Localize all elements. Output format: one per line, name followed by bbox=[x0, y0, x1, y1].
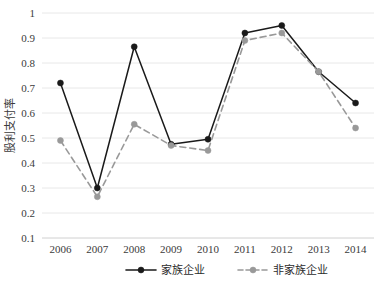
legend-label: 家族企业 bbox=[161, 263, 205, 276]
gridlines bbox=[42, 13, 374, 238]
y-tick-label: 0.8 bbox=[21, 57, 35, 69]
legend-label: 非家族企业 bbox=[273, 263, 328, 276]
data-point-marker bbox=[94, 194, 100, 200]
x-tick-label: 2013 bbox=[308, 243, 331, 255]
chart-canvas: 0.10.20.30.40.50.60.70.80.91 20062007200… bbox=[0, 0, 381, 284]
y-axis-tick-labels: 0.10.20.30.40.50.60.70.80.91 bbox=[21, 7, 35, 244]
data-point-marker bbox=[94, 185, 100, 191]
data-point-marker bbox=[279, 23, 285, 29]
y-tick-label: 0.4 bbox=[21, 157, 35, 169]
y-tick-label: 0.6 bbox=[21, 107, 35, 119]
y-tick-label: 0.5 bbox=[21, 132, 35, 144]
data-point-marker bbox=[353, 100, 359, 106]
chart-legend: 家族企业非家族企业 bbox=[126, 263, 328, 276]
x-tick-label: 2010 bbox=[197, 243, 220, 255]
data-point-marker bbox=[316, 69, 322, 75]
data-point-marker bbox=[242, 30, 248, 36]
x-tick-label: 2014 bbox=[345, 243, 368, 255]
data-point-marker bbox=[353, 125, 359, 131]
y-axis-title-text: 股利支付率 bbox=[3, 98, 16, 153]
data-point-marker bbox=[131, 121, 137, 127]
data-point-marker bbox=[57, 138, 63, 144]
data-point-marker bbox=[168, 143, 174, 149]
y-tick-label: 0.9 bbox=[21, 32, 35, 44]
series-line-1 bbox=[60, 33, 355, 197]
data-point-marker bbox=[131, 44, 137, 50]
data-point-marker bbox=[57, 80, 63, 86]
legend-marker bbox=[250, 267, 256, 273]
data-point-marker bbox=[205, 136, 211, 142]
legend-marker bbox=[138, 267, 144, 273]
dividend-payout-line-chart: 0.10.20.30.40.50.60.70.80.91 20062007200… bbox=[0, 0, 381, 284]
series-line-0 bbox=[60, 26, 355, 189]
x-tick-label: 2006 bbox=[49, 243, 72, 255]
data-point-marker bbox=[205, 148, 211, 154]
y-tick-label: 0.1 bbox=[21, 232, 35, 244]
data-series-group bbox=[57, 23, 358, 200]
x-axis-tick-labels: 200620072008200920102011201220132014 bbox=[49, 243, 367, 255]
x-tick-label: 2008 bbox=[123, 243, 146, 255]
x-tick-label: 2011 bbox=[234, 243, 256, 255]
y-tick-label: 0.2 bbox=[21, 207, 35, 219]
data-point-marker bbox=[279, 30, 285, 36]
y-tick-label: 0.7 bbox=[21, 82, 35, 94]
data-point-marker bbox=[242, 38, 248, 44]
x-tick-label: 2009 bbox=[160, 243, 183, 255]
y-tick-label: 1 bbox=[30, 7, 36, 19]
x-tick-label: 2007 bbox=[86, 243, 109, 255]
y-axis-title: 股利支付率 bbox=[3, 98, 16, 153]
x-tick-label: 2012 bbox=[271, 243, 293, 255]
y-tick-label: 0.3 bbox=[21, 182, 35, 194]
